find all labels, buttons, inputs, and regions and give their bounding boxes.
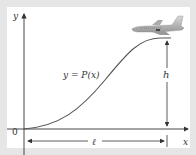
curve-label: y = P(x) — [62, 70, 100, 80]
y-axis-label: y — [12, 11, 19, 21]
polynomial-curve — [24, 38, 171, 129]
height-label: h — [163, 69, 169, 80]
length-dimension — [28, 135, 167, 147]
length-label: ℓ — [92, 137, 96, 147]
origin-label: 0 — [12, 127, 18, 137]
airplane-icon — [132, 16, 184, 35]
x-axis-label: x — [183, 137, 188, 147]
diagram-canvas: y x 0 y = P(x) h ℓ — [0, 0, 196, 155]
